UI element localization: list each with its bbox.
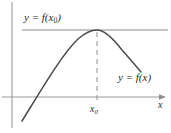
curve-label: y = f(x) [118,72,151,83]
x-axis-label: x [158,100,162,110]
x0-label-subscript: 0 [94,108,97,115]
x0-tick-label: x0 [90,104,98,116]
function-maximum-diagram: y = f(x0) y = f(x) x0 x [0,0,171,133]
tangent-line-label: y = f(x0) [24,12,61,25]
